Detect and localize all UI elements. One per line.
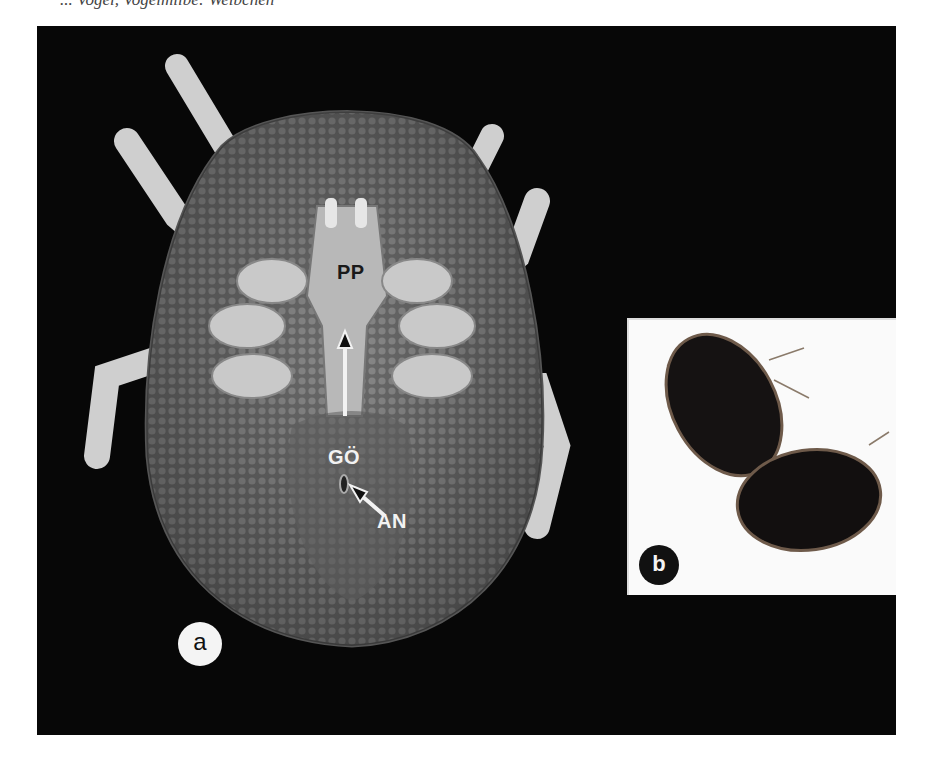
cropped-caption-text: ... Vogel, Vogelmilbe: Weibchen [60, 0, 274, 10]
inset-panel-b: b [627, 318, 896, 595]
label-go: GÖ [328, 446, 360, 469]
figure-panel: PP GÖ AN a b [37, 26, 896, 735]
panel-label-a: a [178, 622, 222, 666]
label-pp: PP [337, 261, 365, 284]
panel-label-b: b [639, 545, 679, 585]
label-an: AN [377, 510, 407, 533]
mite-ventral-sem-image [37, 26, 597, 735]
